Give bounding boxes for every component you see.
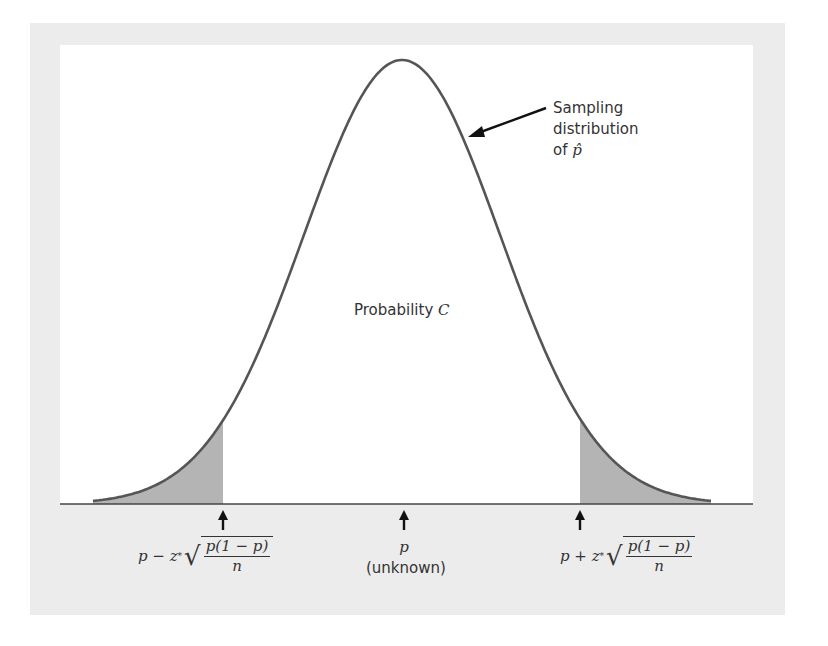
sqrt-icon: √	[184, 536, 201, 576]
curve-label-line3: of p̂	[553, 140, 638, 161]
fraction-denominator: n	[232, 557, 242, 576]
upper-bound-formula: p + z* √ p(1 − p) n	[560, 536, 695, 576]
curve-label-line2: distribution	[553, 119, 638, 140]
z-star: *	[600, 551, 605, 561]
lower-bound-formula: p − z* √ p(1 − p) n	[138, 536, 273, 576]
probability-symbol: C	[438, 301, 449, 319]
plot-panel	[60, 45, 753, 504]
fraction: p(1 − p) n	[201, 536, 274, 576]
curve-label-line1: Sampling	[553, 98, 638, 119]
curve-label: Sampling distribution of p̂	[553, 98, 638, 161]
lower-prefix: p − z	[138, 547, 178, 565]
p-hat-symbol: p̂	[572, 141, 582, 159]
fraction-numerator: p(1 − p)	[204, 537, 271, 557]
center-marker-label: p (unknown)	[366, 537, 442, 579]
curve-label-prefix: of	[553, 141, 572, 159]
unknown-note: (unknown)	[366, 558, 442, 579]
fraction-denominator: n	[654, 557, 664, 576]
probability-text: Probability	[354, 301, 438, 319]
p-symbol: p	[366, 537, 442, 558]
fraction: p(1 − p) n	[623, 536, 696, 576]
upper-prefix: p + z	[560, 547, 600, 565]
diagram: Sampling distribution of p̂ Probability …	[0, 0, 828, 646]
fraction-numerator: p(1 − p)	[626, 537, 693, 557]
probability-label: Probability C	[354, 300, 450, 321]
sqrt-icon: √	[606, 536, 623, 576]
z-star: *	[178, 551, 183, 561]
